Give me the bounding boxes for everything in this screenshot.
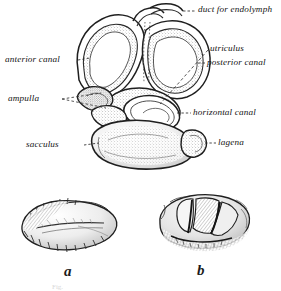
specimen-b-drawing	[160, 195, 250, 252]
figure-caption: Fig.	[52, 283, 63, 291]
label-utriculus: utriculus	[210, 44, 244, 53]
label-anterior-canal: anterior canal	[5, 55, 60, 64]
label-duct-for-endolymph: duct for endolymph	[198, 5, 272, 14]
specimen-letter-a: a	[64, 263, 72, 280]
label-ampulla: ampulla	[8, 94, 39, 103]
specimen-letter-b: b	[197, 262, 205, 279]
label-sacculus: sacculus	[26, 140, 59, 149]
label-posterior-canal: posterior canal	[207, 58, 266, 67]
label-horizontal-canal: horizontal canal	[193, 108, 256, 117]
label-lagena: lagena	[218, 138, 244, 147]
lagena-structure	[181, 130, 206, 157]
posterior-canal-structure	[142, 21, 210, 99]
